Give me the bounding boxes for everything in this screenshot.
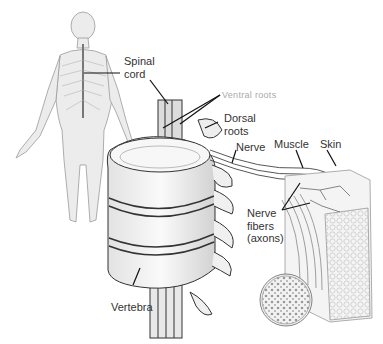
label-nerve: Nerve [236, 141, 265, 154]
label-muscle: Muscle [274, 138, 309, 151]
nervous-system-illustration [0, 0, 383, 344]
label-dorsal-roots: Dorsal roots [224, 112, 256, 137]
label-skin: Skin [320, 138, 341, 151]
label-ventral-roots: Ventral roots [222, 89, 276, 102]
label-line: fibers [247, 220, 284, 233]
label-line: (axons) [247, 232, 284, 245]
label-line: Spinal [124, 55, 155, 68]
label-line: cord [124, 68, 155, 81]
label-nerve-fibers: Nerve fibers (axons) [247, 207, 284, 245]
label-line: Dorsal [224, 112, 256, 125]
muscle-skin-block [260, 170, 372, 326]
label-spinal-cord: Spinal cord [124, 55, 155, 80]
label-line: roots [224, 125, 256, 138]
label-vertebra: Vertebra [111, 301, 153, 314]
label-line: Nerve [247, 207, 284, 220]
